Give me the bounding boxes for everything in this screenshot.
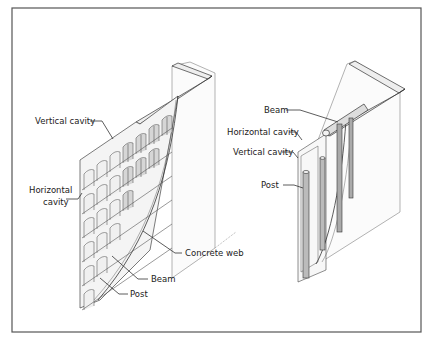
label-vertical-cavity: Vertical cavity xyxy=(35,116,95,126)
label-post: Post xyxy=(130,289,148,299)
right-wall-back-panel xyxy=(318,61,400,264)
label-right-vertical-cavity: Vertical cavity xyxy=(233,147,293,157)
label-beam: Beam xyxy=(151,274,176,284)
label-right-post: Post xyxy=(261,180,279,190)
post-4 xyxy=(349,118,353,198)
label-horizontal-cavity-line1: Horizontal xyxy=(29,185,72,195)
label-right-horizontal-cavity: Horizontal cavity xyxy=(227,127,299,137)
left-wall-illustration xyxy=(80,62,215,310)
label-concrete-web: Concrete web xyxy=(185,248,244,258)
diagram-canvas: Vertical cavity Horizontal cavity Concre… xyxy=(0,0,433,342)
post-1 xyxy=(303,172,309,278)
left-wall-back-panel xyxy=(172,62,215,278)
label-horizontal-cavity-line2: cavity xyxy=(43,197,69,207)
label-right-beam: Beam xyxy=(264,105,289,115)
grid-cell xyxy=(84,290,94,311)
right-wall-illustration xyxy=(298,61,405,282)
post-3 xyxy=(337,124,342,232)
post-2 xyxy=(320,158,325,250)
